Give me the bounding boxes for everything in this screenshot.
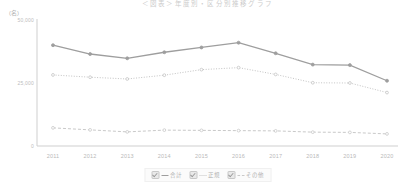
data-point[interactable] [126, 57, 129, 60]
data-point[interactable] [163, 74, 166, 77]
data-point[interactable] [200, 68, 203, 71]
data-point[interactable] [274, 73, 277, 76]
line-chart: ＜図表＞年度別・区分別推移グラフ (名) 50,000 25,000 0 201… [0, 0, 415, 189]
x-tick-label-2011: 2011 [33, 152, 73, 160]
data-point[interactable] [311, 63, 314, 66]
data-point[interactable] [386, 91, 389, 94]
x-tick-label-2017: 2017 [256, 152, 296, 160]
data-point[interactable] [52, 44, 55, 47]
series-line-2 [53, 128, 387, 134]
legend-label-1: 正規 [208, 172, 220, 179]
data-point[interactable] [126, 78, 129, 81]
data-point[interactable] [200, 129, 203, 132]
legend-checkbox-2[interactable] [227, 171, 235, 179]
data-point[interactable] [274, 129, 277, 132]
legend-line-marker-dashed [237, 173, 244, 177]
data-point[interactable] [237, 129, 240, 132]
data-point[interactable] [311, 81, 314, 84]
data-point[interactable] [200, 46, 203, 49]
x-tick-label-2014: 2014 [144, 152, 184, 160]
data-point[interactable] [311, 131, 314, 134]
data-point[interactable] [89, 53, 92, 56]
x-tick-label-2015: 2015 [181, 152, 221, 160]
data-point[interactable] [52, 74, 55, 77]
data-point[interactable] [163, 129, 166, 132]
legend-item-2[interactable]: その他 [227, 171, 264, 179]
data-point[interactable] [126, 130, 129, 133]
plot-area [0, 0, 415, 189]
legend-checkbox-1[interactable] [189, 171, 197, 179]
legend-checkbox-0[interactable] [151, 171, 159, 179]
x-tick-label-2020: 2020 [367, 152, 407, 160]
x-tick-label-2016: 2016 [219, 152, 259, 160]
x-tick-label-2013: 2013 [107, 152, 147, 160]
series-line-0 [53, 43, 387, 81]
chart-legend[interactable]: 合計 正規 その他 [144, 168, 271, 182]
data-point[interactable] [348, 131, 351, 134]
legend-line-marker-solid [161, 173, 168, 177]
data-point[interactable] [386, 79, 389, 82]
data-point[interactable] [89, 76, 92, 79]
x-tick-label-2018: 2018 [293, 152, 333, 160]
series-line-1 [53, 68, 387, 93]
data-point[interactable] [163, 51, 166, 54]
data-point[interactable] [348, 64, 351, 67]
legend-line-marker-dotted [199, 173, 206, 177]
data-point[interactable] [89, 128, 92, 131]
data-point[interactable] [348, 82, 351, 85]
data-point[interactable] [52, 126, 55, 129]
legend-item-1[interactable]: 正規 [189, 171, 220, 179]
data-point[interactable] [274, 52, 277, 55]
x-tick-label-2019: 2019 [330, 152, 370, 160]
legend-label-2: その他 [246, 172, 264, 179]
x-tick-label-2012: 2012 [70, 152, 110, 160]
data-point[interactable] [237, 41, 240, 44]
data-point[interactable] [386, 133, 389, 136]
data-point[interactable] [237, 66, 240, 69]
legend-item-0[interactable]: 合計 [151, 171, 182, 179]
legend-label-0: 合計 [170, 172, 182, 179]
